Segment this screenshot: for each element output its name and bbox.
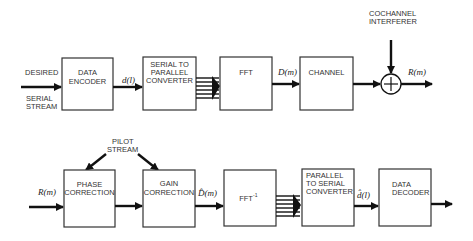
interferer-label-2: INTERFERER [369, 17, 418, 26]
block-serial-to-parallel: SERIAL TO PARALLEL CONVERTER [143, 57, 196, 110]
block-channel: CHANNEL [300, 57, 353, 110]
signal-R-m-in: R(m) [37, 187, 56, 197]
block-data-encoder: DATA ENCODER [62, 58, 113, 110]
block-data-decoder: DATA DECODER [379, 169, 431, 226]
svg-text:CORRECTION: CORRECTION [144, 188, 194, 197]
svg-text:DECODER: DECODER [392, 188, 430, 197]
signal-R-m-out: R(m) [407, 67, 426, 77]
svg-text:FFT: FFT [239, 68, 253, 77]
pilot-label-2: STREAM [107, 145, 138, 154]
input-label-desired: DESIRED [25, 68, 59, 77]
svg-text:ENCODER: ENCODER [69, 77, 107, 86]
svg-text:CONVERTER: CONVERTER [306, 187, 354, 196]
arrow-pilot-to-phase [86, 154, 106, 170]
signal-d-l: d(l) [122, 75, 135, 85]
block-fft: FFT [220, 57, 272, 110]
svg-text:FFT: FFT [239, 194, 253, 203]
svg-text:CHANNEL: CHANNEL [309, 68, 345, 77]
block-gain-correction: GAIN CORRECTION [143, 170, 195, 227]
svg-text:CONVERTER: CONVERTER [146, 76, 194, 85]
bottom-row: R(m) PILOT STREAM PHASE CORRECTION GAIN … [29, 137, 452, 227]
ifft-superscript: -1 [253, 192, 258, 198]
parallel-bus-top [196, 76, 220, 100]
signal-d-hat-l: d̂(l) [357, 189, 370, 200]
parallel-bus-bottom [276, 194, 301, 218]
signal-D-m: D(m) [277, 67, 297, 77]
svg-text:DATA: DATA [78, 68, 97, 77]
ofdm-block-diagram: DESIRED SERIAL STREAM DATA ENCODER d(l) … [0, 0, 473, 241]
svg-text:CORRECTION: CORRECTION [64, 188, 114, 197]
block-parallel-to-serial: PARALLEL TO SERIAL CONVERTER [302, 169, 354, 226]
block-phase-correction: PHASE CORRECTION [64, 170, 115, 227]
block-ifft: FFT -1 [224, 170, 276, 226]
svg-text:GAIN: GAIN [160, 179, 178, 188]
input-label-stream: STREAM [26, 102, 57, 111]
summing-junction [381, 74, 401, 94]
arrow-pilot-to-gain [138, 154, 158, 170]
top-row: DESIRED SERIAL STREAM DATA ENCODER d(l) … [21, 9, 432, 111]
signal-D-hat-m: D̂(m) [197, 188, 217, 198]
